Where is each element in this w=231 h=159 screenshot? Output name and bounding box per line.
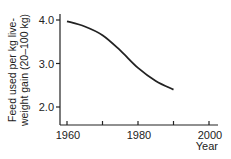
y-tick-label: 2.0 <box>39 101 54 113</box>
data-line <box>67 21 174 89</box>
y-axis-label-line1: Feed used per kg live- <box>6 18 18 122</box>
y-tick-label: 4.0 <box>39 14 54 26</box>
y-tick-label: 3.0 <box>39 58 54 70</box>
x-tick-label: 1980 <box>127 129 151 141</box>
y-axis-label-line2: weight gain (20–100 kg) <box>18 14 30 127</box>
y-ticks: 2.03.04.0 <box>39 14 60 113</box>
x-tick-label: 1960 <box>56 129 80 141</box>
x-ticks: 196019802000 <box>56 121 222 141</box>
x-axis-label: Year <box>196 140 219 152</box>
line-chart: 2.03.04.0 196019802000 Year Feed used pe… <box>0 0 231 159</box>
